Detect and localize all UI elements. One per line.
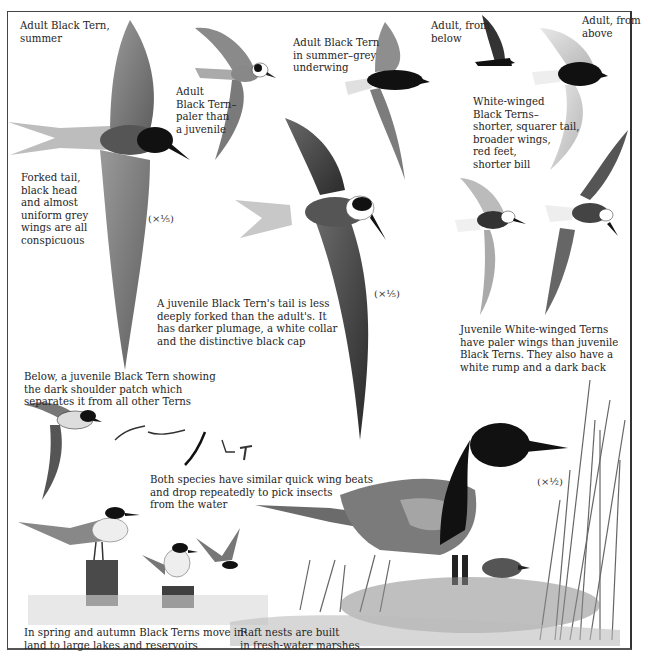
scale-label-2: (×⅕)	[374, 288, 400, 299]
caption-forked-tail: Forked tail, black head and almost unifo…	[21, 172, 88, 248]
caption-spring-autumn: In spring and autumn Black Terns move in…	[24, 627, 247, 652]
scale-label-1: (×⅕)	[148, 213, 174, 224]
caption-white-winged: White-winged Black Terns– shorter, squar…	[473, 96, 579, 172]
caption-adult-from-below: Adult, from below	[431, 20, 490, 45]
bird-juvenile-black-tern	[235, 118, 386, 440]
bird-perched-large	[18, 507, 140, 606]
caption-adult-summer: Adult Black Tern, summer	[20, 20, 110, 45]
caption-adult-paler: Adult Black Tern– paler than a juvenile	[176, 86, 237, 136]
caption-adult-from-above: Adult, from above	[582, 15, 641, 40]
caption-raft-nests: Raft nests are built in fresh-water mars…	[240, 627, 360, 652]
bird-juvenile-white-winged-1	[455, 178, 526, 315]
water-strip	[28, 595, 268, 625]
caption-wing-beats: Both species have similar quick wing bea…	[150, 474, 373, 512]
caption-juvenile-white-winged: Juvenile White-winged Terns have paler w…	[460, 324, 618, 374]
bird-juvenile-shoulder-patch	[25, 402, 102, 500]
caption-juvenile-black-tern: A juvenile Black Tern's tail is less dee…	[157, 298, 338, 348]
scale-label-3: (×½)	[537, 476, 563, 487]
bird-flying-low	[196, 528, 240, 569]
caption-adult-grey-underwing: Adult Black Tern in summer–grey underwin…	[293, 37, 379, 75]
distant-birds	[115, 426, 252, 465]
caption-shoulder-patch: Below, a juvenile Black Tern showing the…	[24, 371, 216, 409]
